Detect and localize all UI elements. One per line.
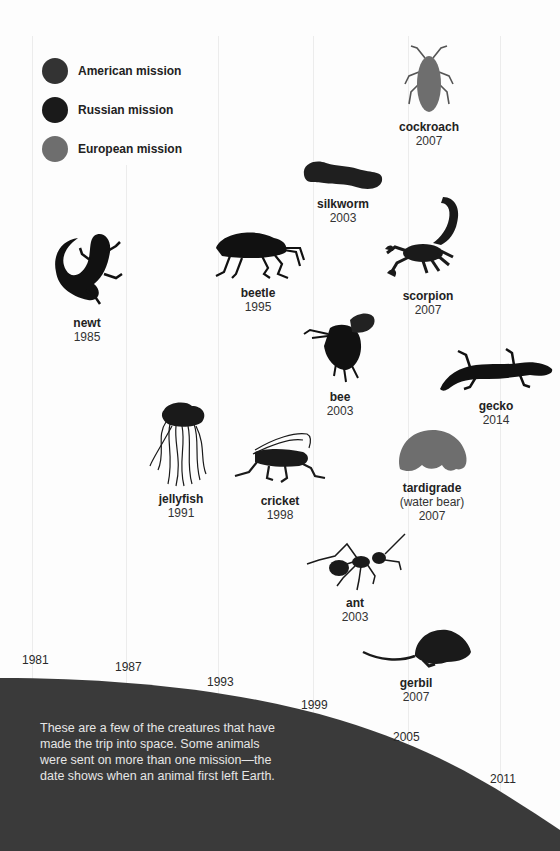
animal-gecko: gecko 2014 <box>432 345 560 427</box>
russian-dot-icon <box>42 97 68 123</box>
animal-year: 2007 <box>377 509 487 523</box>
animal-year: 2007 <box>356 690 476 704</box>
animal-name: gerbil <box>356 676 476 690</box>
legend-label: American mission <box>78 64 181 78</box>
newt-icon <box>42 230 132 312</box>
beetle-icon <box>208 226 308 282</box>
animal-name: tardigrade <box>377 481 487 495</box>
gerbil-icon <box>359 626 473 672</box>
animal-year: 1998 <box>220 508 340 522</box>
animal-tardigrade: tardigrade (water bear) 2007 <box>377 425 487 523</box>
animal-name: bee <box>285 390 395 404</box>
gridline-2011 <box>500 36 501 851</box>
legend-item-european: European mission <box>42 136 182 162</box>
scorpion-icon <box>383 193 473 285</box>
gridline-1981 <box>32 36 33 851</box>
cockroach-icon <box>399 44 459 116</box>
animal-year: 2003 <box>285 404 395 418</box>
european-dot-icon <box>42 136 68 162</box>
year-tick-1993: 1993 <box>207 675 234 689</box>
ant-icon <box>303 530 407 592</box>
tardigrade-icon <box>392 425 472 477</box>
animal-cricket: cricket 1998 <box>220 428 340 522</box>
animal-beetle: beetle 1995 <box>203 226 313 314</box>
animal-newt: newt 1985 <box>32 230 142 344</box>
animal-name: scorpion <box>373 289 483 303</box>
gecko-icon <box>436 345 556 395</box>
animal-name: cricket <box>220 494 340 508</box>
year-tick-1981: 1981 <box>22 653 49 667</box>
animal-scorpion: scorpion 2007 <box>373 193 483 317</box>
year-tick-2005: 2005 <box>393 730 420 744</box>
animal-note: (water bear) <box>377 495 487 509</box>
cricket-icon <box>225 428 335 490</box>
caption-text: These are a few of the creatures that ha… <box>40 720 280 784</box>
animal-year: 2003 <box>300 610 410 624</box>
animal-ant: ant 2003 <box>300 530 410 624</box>
animal-gerbil: gerbil 2007 <box>356 626 476 704</box>
legend-item-american: American mission <box>42 58 182 84</box>
animal-cockroach: cockroach 2007 <box>374 44 484 148</box>
silkworm-icon <box>298 155 388 193</box>
legend-item-russian: Russian mission <box>42 97 182 123</box>
year-tick-2011: 2011 <box>490 772 516 786</box>
animal-bee: bee 2003 <box>285 310 395 418</box>
year-tick-1999: 1999 <box>301 698 328 712</box>
legend-label: Russian mission <box>78 103 173 117</box>
legend-label: European mission <box>78 142 182 156</box>
jellyfish-icon <box>146 400 216 488</box>
animal-year: 2007 <box>374 134 484 148</box>
animal-name: ant <box>300 596 410 610</box>
animal-name: beetle <box>203 286 313 300</box>
animal-name: gecko <box>432 399 560 413</box>
legend: American mission Russian mission Europea… <box>42 58 182 175</box>
year-tick-1987: 1987 <box>115 660 142 674</box>
animal-name: newt <box>32 316 142 330</box>
american-dot-icon <box>42 58 68 84</box>
animal-name: cockroach <box>374 120 484 134</box>
bee-icon <box>300 310 380 386</box>
animal-year: 1985 <box>32 330 142 344</box>
